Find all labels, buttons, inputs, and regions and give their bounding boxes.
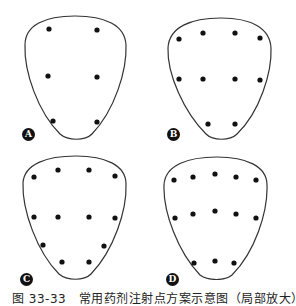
injection-point-dot xyxy=(101,243,106,248)
gluteal-outline-d xyxy=(141,140,283,280)
injection-point-dot xyxy=(176,76,181,81)
injection-point-dot xyxy=(59,259,64,264)
injection-point-dot xyxy=(50,118,55,123)
injection-point-dot xyxy=(176,36,181,41)
injection-point-dot xyxy=(257,77,262,82)
injection-point-dot xyxy=(55,214,60,219)
injection-point-dot xyxy=(86,214,91,219)
injection-point-dot xyxy=(232,30,237,35)
injection-point-dot xyxy=(45,73,50,78)
injection-point-dot xyxy=(112,215,117,220)
figure-caption: 图 33-33 常用药剂注射点方案示意图（局部放大） xyxy=(12,289,283,306)
injection-point-dot xyxy=(94,119,99,124)
gluteal-outline-c xyxy=(0,140,141,280)
injection-point-dot xyxy=(86,167,91,172)
panel-a: A xyxy=(0,0,141,140)
injection-points-a xyxy=(45,26,99,124)
injection-point-dot xyxy=(253,177,258,182)
injection-point-dot xyxy=(86,259,91,264)
injection-point-dot xyxy=(212,258,217,263)
injection-point-dot xyxy=(253,215,258,220)
injection-point-dot xyxy=(94,27,99,32)
injection-point-dot xyxy=(94,74,99,79)
gluteal-outline-a xyxy=(0,0,141,140)
label-badge-d: D xyxy=(166,273,179,286)
injection-points-c xyxy=(31,167,117,264)
injection-point-dot xyxy=(172,215,177,220)
panel-d: D xyxy=(141,140,282,280)
injection-point-dot xyxy=(40,242,45,247)
injection-point-dot xyxy=(55,167,60,172)
injection-point-dot xyxy=(205,121,210,126)
injection-point-dot xyxy=(232,121,237,126)
injection-point-dot xyxy=(171,177,176,182)
injection-point-dot xyxy=(191,260,196,265)
injection-point-dot xyxy=(232,76,237,81)
injection-point-dot xyxy=(190,211,195,216)
panel-b: B xyxy=(141,0,282,140)
injection-point-dot xyxy=(31,214,36,219)
injection-points-d xyxy=(171,171,258,265)
injection-point-dot xyxy=(257,35,262,40)
injection-point-dot xyxy=(231,260,236,265)
gluteal-outline-b xyxy=(141,0,283,140)
injection-point-dot xyxy=(233,211,238,216)
label-badge-c: C xyxy=(20,273,33,286)
injection-point-dot xyxy=(112,173,117,178)
injection-point-dot xyxy=(200,30,205,35)
injection-point-dot xyxy=(212,208,217,213)
injection-point-dot xyxy=(190,174,195,179)
panel-c: C xyxy=(0,140,141,280)
injection-point-dot xyxy=(46,26,51,31)
injection-point-dot xyxy=(31,174,36,179)
injection-point-dot xyxy=(233,174,238,179)
injection-point-dot xyxy=(200,76,205,81)
injection-point-dot xyxy=(212,171,217,176)
